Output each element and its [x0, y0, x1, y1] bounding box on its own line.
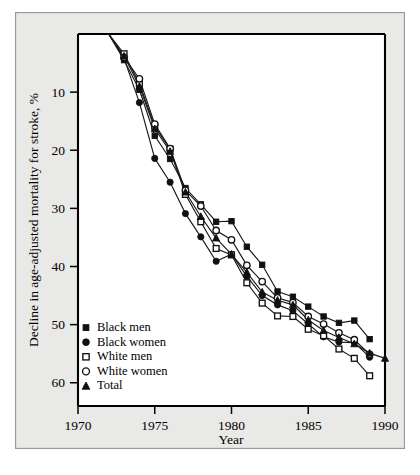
x-tick-label: 1990: [372, 418, 399, 433]
marker-open-square: [351, 355, 357, 361]
legend-label: Total: [97, 378, 123, 392]
marker-filled-square: [260, 262, 265, 267]
marker-filled-square: [244, 244, 249, 249]
marker-filled-square: [213, 219, 218, 224]
marker-filled-square: [83, 325, 89, 331]
marker-filled-square: [352, 318, 357, 323]
legend-label: Black women: [97, 335, 167, 349]
y-tick-label: 40: [52, 259, 66, 274]
y-tick-label: 50: [52, 317, 66, 332]
marker-filled-square: [290, 294, 295, 299]
y-tick-label: 10: [52, 85, 66, 100]
legend-label: Black men: [97, 320, 152, 334]
marker-filled-circle: [182, 211, 188, 217]
marker-open-circle: [198, 203, 204, 209]
marker-open-circle: [83, 368, 90, 375]
x-axis-title: Year: [219, 432, 244, 447]
marker-open-square: [367, 373, 373, 379]
x-axis-ticks: 19701975198019851990: [65, 406, 399, 433]
y-tick-label: 30: [52, 201, 66, 216]
marker-open-circle: [136, 76, 142, 82]
marker-open-circle: [259, 278, 265, 284]
legend-label: White women: [97, 364, 168, 378]
marker-open-square: [213, 246, 219, 252]
marker-filled-circle: [136, 99, 142, 105]
y-axis-ticks: 102030405060: [52, 85, 79, 391]
marker-filled-circle: [152, 155, 158, 161]
marker-filled-square: [367, 336, 372, 341]
figure-root: 102030405060 19701975198019851990 Black …: [0, 0, 420, 475]
y-tick-label: 20: [52, 143, 66, 158]
x-tick-label: 1970: [65, 418, 92, 433]
marker-open-circle: [213, 227, 219, 233]
marker-open-square: [259, 300, 265, 306]
marker-filled-square: [229, 218, 234, 223]
figure-panel: 102030405060 19701975198019851990 Black …: [15, 12, 405, 449]
legend-label: White men: [97, 349, 153, 363]
marker-filled-circle: [290, 308, 296, 314]
y-axis-title: Decline in age-adjusted mortality for st…: [26, 93, 41, 347]
marker-filled-circle: [83, 339, 90, 346]
y-tick-label: 60: [52, 375, 66, 390]
marker-open-square: [83, 354, 89, 360]
marker-open-square: [336, 346, 342, 352]
marker-filled-square: [321, 314, 326, 319]
marker-filled-circle: [167, 179, 173, 185]
marker-filled-square: [275, 289, 280, 294]
marker-filled-square: [152, 133, 157, 138]
x-tick-label: 1980: [218, 418, 245, 433]
figure-caption: [18, 456, 402, 474]
stroke-mortality-decline-chart: 102030405060 19701975198019851990 Black …: [16, 13, 406, 450]
x-tick-label: 1985: [295, 418, 322, 433]
marker-filled-square: [167, 156, 172, 161]
x-tick-label: 1975: [141, 418, 168, 433]
marker-open-circle: [244, 262, 250, 268]
marker-filled-square: [336, 320, 341, 325]
marker-open-square: [290, 314, 296, 320]
marker-filled-circle: [198, 234, 204, 240]
marker-filled-square: [306, 304, 311, 309]
marker-open-circle: [228, 237, 234, 243]
marker-open-square: [244, 280, 250, 286]
marker-filled-circle: [213, 258, 219, 264]
marker-open-square: [305, 326, 311, 332]
marker-open-square: [275, 313, 281, 319]
